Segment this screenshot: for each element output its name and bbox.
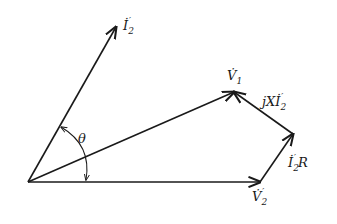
phasor-diagram: İ2′ V̇1 jXİ2′ İ2′R V̇2′ θ bbox=[0, 0, 337, 224]
vector-v1 bbox=[28, 92, 234, 182]
label-v1: V̇1 bbox=[227, 68, 242, 86]
label-jx-i2-prime: jXİ2′ bbox=[259, 92, 286, 112]
label-v2-prime: V̇2′ bbox=[252, 187, 267, 207]
label-i2-prime-r: İ2′R bbox=[287, 153, 308, 173]
label-theta: θ bbox=[78, 131, 86, 146]
label-i2-prime: İ2′ bbox=[122, 16, 134, 36]
vector-i2-prime bbox=[28, 27, 116, 182]
